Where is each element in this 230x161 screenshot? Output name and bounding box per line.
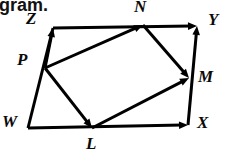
vertex-label-y: Y bbox=[208, 11, 218, 28]
vertex-label-x: X bbox=[197, 114, 208, 131]
vertex-label-z: Z bbox=[26, 10, 36, 27]
edge-Z-Y bbox=[53, 26, 191, 28]
diagram-canvas: gram. WZYXPNML bbox=[0, 0, 230, 161]
vector-N-M bbox=[143, 25, 185, 74]
arrowhead-W-X bbox=[179, 121, 188, 129]
vertex-label-l: L bbox=[86, 135, 96, 152]
vector-P-L bbox=[45, 68, 89, 124]
edge-X-Y bbox=[188, 32, 196, 125]
vertex-label-m: M bbox=[198, 68, 213, 85]
vertex-label-n: N bbox=[134, 0, 146, 15]
vector-L-M bbox=[92, 81, 184, 128]
vertex-label-p: P bbox=[17, 51, 27, 68]
segment-layer bbox=[28, 25, 196, 128]
vector-P-N bbox=[45, 27, 138, 68]
edge-W-X bbox=[28, 125, 182, 128]
vertex-label-w: W bbox=[2, 113, 17, 130]
